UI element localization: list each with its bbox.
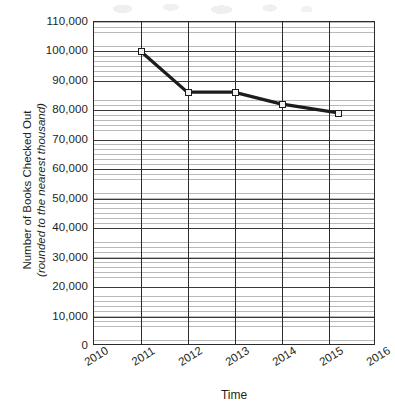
y-tick-label-10000: 10,000 <box>52 310 88 322</box>
gridline-y-10000 <box>94 317 374 318</box>
gridline-x-2015 <box>329 22 330 344</box>
gridline-y-50000 <box>94 199 374 200</box>
y-axis-title-line-2: (rounded to the nearest thousand) <box>34 83 48 298</box>
gridline-y-20000 <box>94 287 374 288</box>
data-point-marker <box>138 48 145 55</box>
y-tick-label-60000: 60,000 <box>52 162 88 174</box>
y-tick-label-0: 0 <box>82 339 89 351</box>
gridline-x-2011 <box>141 22 142 344</box>
gridline-y-90000 <box>94 81 374 82</box>
y-tick-label-40000: 40,000 <box>52 221 88 233</box>
minor-gridlines <box>94 22 374 344</box>
data-line-series <box>94 22 374 344</box>
x-tick-label-2014: 2014 <box>270 344 298 368</box>
data-point-marker <box>279 101 286 108</box>
y-tick-label-90000: 90,000 <box>52 74 88 86</box>
gridline-y-60000 <box>94 169 374 170</box>
x-tick-label-2011: 2011 <box>130 344 157 367</box>
y-tick-label-50000: 50,000 <box>52 192 88 204</box>
y-axis-title-line-1: Number of Books Checked Out <box>20 83 34 298</box>
data-point-marker <box>185 89 192 96</box>
data-point-marker <box>232 89 239 96</box>
y-tick-label-30000: 30,000 <box>52 251 88 263</box>
x-tick-label-2016: 2016 <box>364 344 392 368</box>
y-tick-label-80000: 80,000 <box>52 103 88 115</box>
y-tick-label-100000: 100,000 <box>46 44 88 56</box>
plot-area <box>93 21 375 345</box>
y-tick-label-110000: 110,000 <box>47 15 88 27</box>
data-point-marker <box>335 110 342 117</box>
gridline-x-2014 <box>282 22 283 344</box>
gridline-y-100000 <box>94 51 374 52</box>
gridline-x-2012 <box>188 22 189 344</box>
y-axis-title: Number of Books Checked Out (rounded to … <box>20 83 48 298</box>
x-axis-title: Time <box>93 388 375 402</box>
gridline-y-70000 <box>94 140 374 141</box>
y-tick-label-70000: 70,000 <box>52 133 88 145</box>
chart-figure: 010,00020,00030,00040,00050,00060,00070,… <box>0 0 395 411</box>
gridline-y-30000 <box>94 258 374 259</box>
gridline-x-2013 <box>235 22 236 344</box>
gridline-y-40000 <box>94 228 374 229</box>
x-tick-label-2013: 2013 <box>223 344 251 368</box>
scan-bleedthrough-artifact <box>95 0 325 16</box>
series-polyline <box>141 51 337 112</box>
x-tick-label-2012: 2012 <box>176 344 204 368</box>
gridline-y-80000 <box>94 110 374 111</box>
y-tick-label-20000: 20,000 <box>52 280 88 292</box>
x-tick-label-2015: 2015 <box>317 344 345 368</box>
